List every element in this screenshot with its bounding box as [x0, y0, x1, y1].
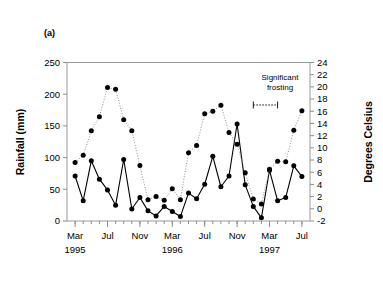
frosting-range-bracket [253, 102, 277, 109]
figure-container: (a) Rainfall (mm) Degrees Celsius 050100… [0, 0, 383, 281]
x-tick-label: Nov [229, 230, 246, 241]
y-axis-title: Rainfall (mm) [14, 109, 26, 176]
x-tick-year-label: 1995 [65, 244, 86, 255]
data-point-rainfall [251, 204, 256, 209]
data-point-rainfall [235, 122, 240, 127]
data-point-temperature [218, 103, 223, 108]
series-line-temperature [75, 87, 302, 203]
x-tick-label: Jul [199, 230, 211, 241]
data-point-temperature [227, 130, 232, 135]
data-point-rainfall [97, 177, 102, 182]
x-tick-label: Jul [101, 230, 113, 241]
data-point-temperature [194, 143, 199, 148]
y2-tick-label: 10 [317, 142, 328, 153]
data-point-temperature [170, 186, 175, 191]
data-point-rainfall [243, 182, 248, 187]
frosting-annotation: Significant frosting [253, 73, 299, 109]
data-point-temperature [146, 197, 151, 202]
x-axis-ticks: Mar1995JulNovMar1996JulNovMar1997Jul [65, 221, 308, 255]
x-tick-label: Mar [67, 230, 83, 241]
data-point-temperature [113, 87, 118, 92]
data-point-rainfall [89, 158, 94, 163]
data-point-temperature [162, 198, 167, 203]
data-point-rainfall [129, 206, 134, 211]
x-tick-label: Mar [261, 230, 277, 241]
data-point-temperature [121, 117, 126, 122]
data-point-temperature [235, 142, 240, 147]
data-point-rainfall [137, 195, 142, 200]
data-point-rainfall [202, 182, 207, 187]
x-tick-label: Jul [296, 230, 308, 241]
data-point-temperature [105, 85, 110, 90]
y2-tick-label: 12 [317, 130, 328, 141]
data-point-temperature [251, 197, 256, 202]
y2-tick-label: 6 [317, 167, 322, 178]
x-tick-year-label: 1996 [162, 244, 183, 255]
y2-axis-ticks: -2024681012141618202224 [310, 57, 328, 227]
data-point-rainfall [291, 163, 296, 168]
y2-tick-label: 2 [317, 191, 322, 202]
y2-tick-label: 4 [317, 179, 322, 190]
x-tick-year-label: 1997 [259, 244, 280, 255]
y2-tick-label: 18 [317, 93, 328, 104]
data-point-temperature [202, 111, 207, 116]
annotation-line-2: frosting [267, 83, 293, 92]
data-point-temperature [283, 159, 288, 164]
x-tick-label: Mar [164, 230, 180, 241]
data-point-temperature [97, 114, 102, 119]
y2-tick-label: 24 [317, 57, 328, 68]
annotation-line-1: Significant [262, 73, 300, 82]
y-tick-label: 50 [49, 184, 60, 195]
data-point-rainfall [194, 196, 199, 201]
data-point-rainfall [299, 174, 304, 179]
y-tick-label: 100 [44, 152, 60, 163]
data-point-temperature [89, 128, 94, 133]
data-point-rainfall [227, 173, 232, 178]
data-point-rainfall [259, 215, 264, 220]
y2-tick-label: 14 [317, 118, 328, 129]
data-point-temperature [291, 128, 296, 133]
y2-tick-label: 16 [317, 106, 328, 117]
data-point-temperature [186, 150, 191, 155]
data-point-rainfall [105, 187, 110, 192]
y-axis-ticks: 050100150200250 [44, 57, 67, 227]
y-tick-label: 150 [44, 120, 60, 131]
data-point-temperature [275, 159, 280, 164]
y2-tick-label: 8 [317, 154, 322, 165]
data-point-temperature [178, 197, 183, 202]
data-point-rainfall [186, 191, 191, 196]
y-tick-label: 250 [44, 57, 60, 68]
data-point-rainfall [170, 209, 175, 214]
y2-tick-label: 20 [317, 81, 328, 92]
panel-label: (a) [44, 28, 55, 38]
data-point-rainfall [178, 214, 183, 219]
data-point-temperature [210, 109, 215, 114]
data-point-rainfall [154, 213, 159, 218]
data-point-temperature [129, 128, 134, 133]
y-tick-label: 200 [44, 89, 60, 100]
x-tick-label: Nov [131, 230, 148, 241]
data-point-rainfall [210, 154, 215, 159]
data-point-rainfall [283, 195, 288, 200]
data-point-rainfall [113, 203, 118, 208]
y2-tick-label: 0 [317, 203, 322, 214]
data-point-temperature [81, 153, 86, 158]
data-point-temperature [154, 194, 159, 199]
data-point-rainfall [218, 184, 223, 189]
y2-tick-label: -2 [317, 215, 325, 226]
data-point-temperature [267, 167, 272, 172]
data-point-temperature [259, 201, 264, 206]
y2-axis-title: Degrees Celsius [362, 101, 374, 183]
data-point-rainfall [73, 173, 78, 178]
data-point-temperature [137, 163, 142, 168]
data-point-rainfall [81, 198, 86, 203]
data-point-temperature [73, 160, 78, 165]
rainfall-temperature-chart: (a) Rainfall (mm) Degrees Celsius 050100… [0, 0, 383, 281]
y-tick-label: 0 [55, 215, 60, 226]
data-point-rainfall [275, 198, 280, 203]
y2-tick-label: 22 [317, 69, 328, 80]
data-point-temperature [299, 108, 304, 113]
data-point-rainfall [121, 157, 126, 162]
data-point-rainfall [162, 204, 167, 209]
data-point-temperature [243, 170, 248, 175]
